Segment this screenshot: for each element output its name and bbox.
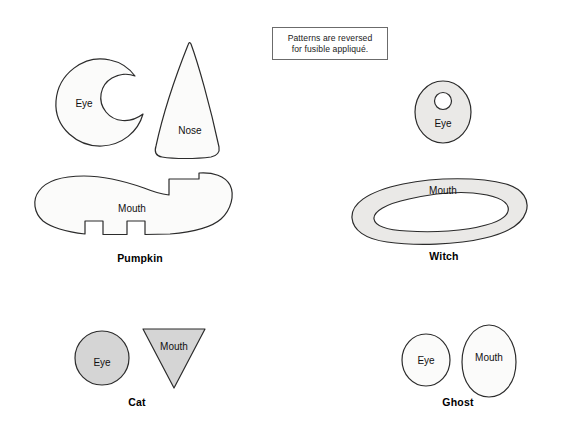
fusible-applique-note: Patterns are reversed for fusible appliq…	[272, 27, 388, 60]
cat-mouth-shape: Mouth	[140, 326, 208, 390]
group-label-pumpkin: Pumpkin	[105, 252, 175, 264]
witch-mouth-label: Mouth	[429, 185, 457, 196]
witch-eye-label: Eye	[434, 118, 452, 129]
pumpkin-eye-shape: Eye	[44, 52, 154, 152]
pumpkin-nose-shape: Nose	[150, 41, 228, 163]
cat-mouth-label: Mouth	[160, 341, 188, 352]
witch-mouth-shape: Mouth	[351, 178, 531, 248]
pumpkin-mouth-label: Mouth	[118, 203, 146, 214]
note-line-1: Patterns are reversed	[288, 33, 373, 44]
ghost-eye-shape: Eye	[399, 332, 453, 388]
group-label-witch: Witch	[409, 250, 479, 262]
ghost-mouth-shape: Mouth	[458, 322, 520, 400]
ghost-mouth-label: Mouth	[475, 352, 503, 363]
note-line-2: for fusible appliqué.	[292, 44, 369, 55]
pumpkin-mouth-shape: Mouth	[32, 171, 237, 239]
cat-eye-shape: Eye	[73, 329, 131, 387]
ghost-eye-label: Eye	[417, 355, 435, 366]
witch-eye-shape: Eye	[412, 79, 474, 145]
witch-eye-hole	[435, 93, 452, 110]
group-label-cat: Cat	[107, 396, 167, 408]
cat-eye-label: Eye	[93, 357, 111, 368]
pattern-sheet: Patterns are reversed for fusible appliq…	[0, 0, 567, 439]
pumpkin-nose-label: Nose	[178, 125, 202, 136]
group-label-ghost: Ghost	[428, 396, 488, 408]
pumpkin-eye-label: Eye	[75, 98, 93, 109]
